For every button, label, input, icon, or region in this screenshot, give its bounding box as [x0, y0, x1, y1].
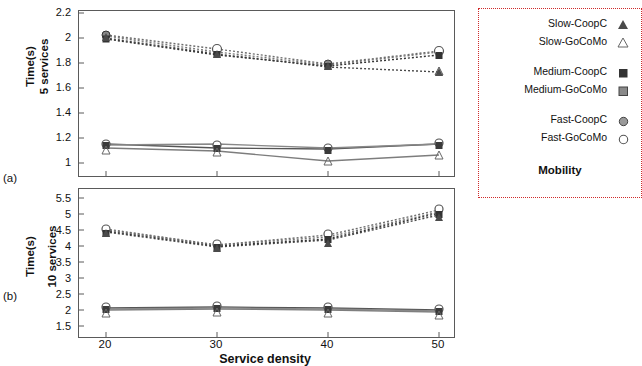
- panel-a-ylabel: Time(s): [24, 27, 37, 107]
- panel-b-ytick: 2.5: [45, 288, 71, 300]
- panel-a-xticks: [106, 171, 439, 176]
- panel-a-ylabel-line1: Time(s): [24, 27, 37, 107]
- xtick-30: 30: [201, 338, 231, 350]
- circle-open-icon: [618, 134, 629, 147]
- panel-b-ytick: 3.5: [45, 256, 71, 268]
- panel-a-ytick: 2: [45, 31, 71, 43]
- legend-label-slow-coopc: Slow-CoopC: [548, 17, 607, 29]
- legend-label-fast-gocomo: Fast-GoCoMo: [541, 131, 607, 143]
- panel-a-ytick: 1.8: [45, 56, 71, 68]
- legend-item-slow-gocomo[interactable]: Slow-GoCoMo: [479, 35, 641, 49]
- panel-b-ytick: 4: [45, 240, 71, 252]
- series-b-fast-coopc-line: [106, 210, 439, 245]
- panel-b-ytick: 4.5: [45, 224, 71, 236]
- panel-a-yticks: [79, 13, 84, 163]
- legend-label-medium-gocomo: Medium-GoCoMo: [524, 83, 607, 95]
- xtick-20: 20: [90, 338, 120, 350]
- circle-icon: [618, 116, 629, 129]
- panel-a-lower-markers: [102, 139, 443, 165]
- panel-a-plot: [78, 10, 455, 177]
- square-icon: [618, 68, 629, 81]
- panel-b-ytick: 3: [45, 272, 71, 284]
- panel-b-upper-markers: [102, 205, 443, 252]
- legend-label-medium-coopc: Medium-CoopC: [533, 65, 607, 77]
- figure-root: Time(s) 5 services (a) 2.2 2 1.8 1.6 1.4…: [0, 0, 642, 366]
- panel-b-ytick: 2: [45, 304, 71, 316]
- square-open-icon: [618, 86, 629, 99]
- series-slow-coopc-line: [106, 38, 439, 72]
- legend-box: Slow-CoopC Slow-GoCoMo Medium-CoopC Medi…: [478, 8, 642, 198]
- panel-b-svg: [79, 189, 454, 337]
- legend-item-slow-coopc[interactable]: Slow-CoopC: [479, 17, 641, 31]
- panel-b-ytick: 5.5: [45, 192, 71, 204]
- legend-label-slow-gocomo: Slow-GoCoMo: [539, 35, 607, 47]
- panel-a-ytick: 1.2: [45, 131, 71, 143]
- triangle-open-icon: [617, 37, 629, 50]
- legend-label-fast-coopc: Fast-CoopC: [550, 113, 607, 125]
- legend-item-fast-coopc[interactable]: Fast-CoopC: [479, 113, 641, 127]
- panel-a-letter: (a): [3, 172, 17, 184]
- x-axis-title: Service density: [160, 352, 370, 366]
- triangle-icon: [617, 19, 629, 32]
- legend-title: Mobility: [479, 164, 641, 176]
- panel-b-ytick: 5: [45, 208, 71, 220]
- series-medium-coopc-line: [106, 39, 439, 66]
- legend-item-fast-gocomo[interactable]: Fast-GoCoMo: [479, 131, 641, 145]
- panel-a-ytick: 1: [45, 156, 71, 168]
- panel-a-ytick: 2.2: [45, 6, 71, 18]
- series-slow-gocomo-line: [106, 148, 439, 161]
- panel-b-xticks: [106, 332, 439, 337]
- xtick-40: 40: [312, 338, 342, 350]
- panel-a-ytick: 1.4: [45, 106, 71, 118]
- panel-b-yticks: [79, 198, 84, 326]
- panel-b-letter: (b): [3, 290, 17, 302]
- panel-b-ylabel: Time(s): [24, 217, 37, 297]
- legend-item-medium-gocomo[interactable]: Medium-GoCoMo: [479, 83, 641, 97]
- series-b-medium-gocomo-upper-line: [106, 212, 439, 245]
- series-b-medium-coopc-line: [106, 213, 439, 246]
- panel-b-ylabel-line1: Time(s): [24, 217, 37, 297]
- legend-item-medium-coopc[interactable]: Medium-CoopC: [479, 65, 641, 79]
- panel-b-plot: [78, 188, 455, 338]
- xtick-50: 50: [423, 338, 453, 350]
- panel-a-ytick: 1.6: [45, 81, 71, 93]
- panel-a-svg: [79, 11, 454, 176]
- panel-b-ytick: 1.5: [45, 320, 71, 332]
- series-b-slow-coopc-line: [106, 215, 439, 247]
